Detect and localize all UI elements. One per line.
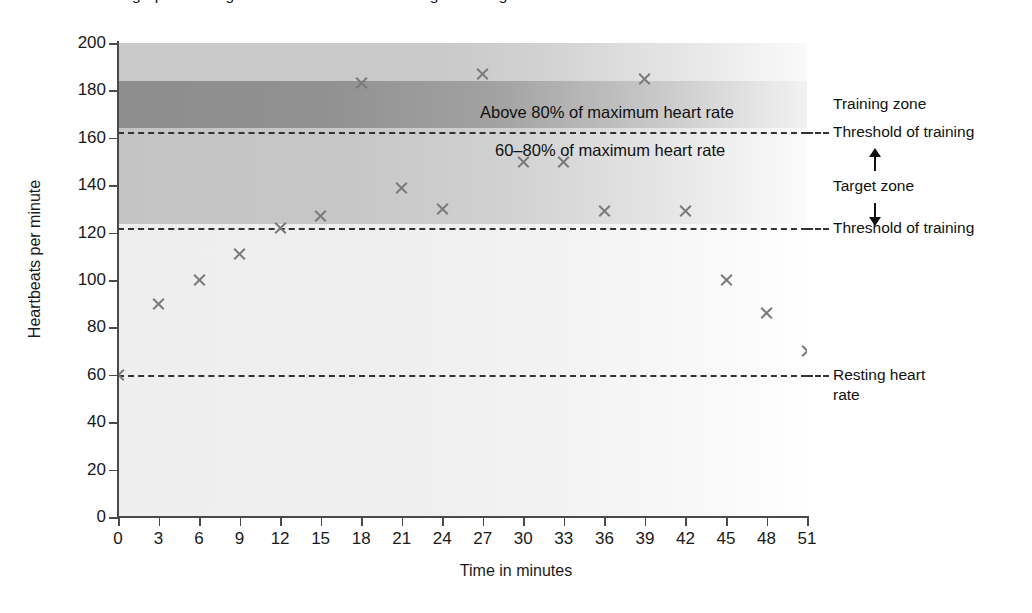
y-tick bbox=[109, 327, 118, 329]
x-tick bbox=[807, 517, 809, 526]
x-tick bbox=[604, 517, 606, 526]
reference-line-threshold-lower bbox=[118, 228, 807, 230]
x-tick bbox=[240, 517, 242, 526]
x-tick bbox=[199, 517, 201, 526]
band-training-zone-top bbox=[118, 43, 807, 81]
data-point bbox=[435, 202, 450, 217]
annotation-target-zone: Target zone bbox=[833, 177, 914, 195]
x-tick bbox=[685, 517, 687, 526]
y-tick bbox=[109, 422, 118, 424]
x-tick-label: 6 bbox=[194, 529, 203, 549]
arrow-up-icon bbox=[869, 148, 881, 171]
data-point bbox=[354, 76, 369, 91]
data-point bbox=[475, 66, 490, 81]
y-tick bbox=[109, 280, 118, 282]
x-axis-line bbox=[117, 516, 809, 518]
x-tick bbox=[321, 517, 323, 526]
y-tick bbox=[109, 90, 118, 92]
x-tick bbox=[361, 517, 363, 526]
y-axis-title: Heartbeats per minute bbox=[26, 164, 44, 354]
data-point bbox=[273, 221, 288, 236]
y-tick bbox=[109, 43, 118, 45]
x-tick bbox=[726, 517, 728, 526]
data-point bbox=[759, 306, 774, 321]
x-tick-label: 30 bbox=[514, 529, 533, 549]
y-tick-label: 100 bbox=[78, 270, 106, 290]
x-tick-label: 33 bbox=[554, 529, 573, 549]
x-tick bbox=[280, 517, 282, 526]
x-tick-label: 12 bbox=[271, 529, 290, 549]
x-tick-label: 42 bbox=[676, 529, 695, 549]
y-tick bbox=[109, 185, 118, 187]
x-tick-label: 36 bbox=[595, 529, 614, 549]
data-point bbox=[151, 297, 166, 312]
y-tick-label: 20 bbox=[87, 460, 106, 480]
chart-root: A graph showing an athlete's heart rate … bbox=[0, 0, 1032, 613]
plot-area: Above 80% of maximum heart rate 60–80% o… bbox=[118, 43, 807, 517]
x-tick-label: 45 bbox=[717, 529, 736, 549]
x-tick bbox=[767, 517, 769, 526]
annotation-training-zone: Training zone bbox=[833, 95, 926, 113]
x-tick-label: 24 bbox=[433, 529, 452, 549]
y-tick-label: 140 bbox=[78, 175, 106, 195]
y-tick bbox=[109, 517, 118, 519]
chart-title: A graph showing an athlete's heart rate … bbox=[118, 0, 818, 4]
data-point bbox=[719, 273, 734, 288]
x-tick bbox=[645, 517, 647, 526]
annotation-resting-line1: Resting heart bbox=[833, 366, 925, 384]
y-tick-label: 180 bbox=[78, 80, 106, 100]
x-tick bbox=[483, 517, 485, 526]
data-point bbox=[192, 273, 207, 288]
x-tick-label: 9 bbox=[235, 529, 244, 549]
data-point bbox=[118, 368, 126, 383]
x-tick-label: 27 bbox=[473, 529, 492, 549]
annotation-lead-resting bbox=[807, 375, 829, 377]
data-point bbox=[394, 180, 409, 195]
x-tick-label: 48 bbox=[757, 529, 776, 549]
band-below-target bbox=[118, 224, 807, 517]
x-tick bbox=[159, 517, 161, 526]
annotation-lead-threshold-upper bbox=[807, 132, 829, 134]
x-tick bbox=[118, 517, 120, 526]
data-point bbox=[556, 154, 571, 169]
annotation-lead-threshold-lower bbox=[807, 228, 829, 230]
x-axis-title: Time in minutes bbox=[0, 562, 1032, 580]
data-point bbox=[516, 154, 531, 169]
data-point bbox=[637, 71, 652, 86]
x-tick-label: 3 bbox=[154, 529, 163, 549]
reference-line-threshold-upper bbox=[118, 132, 807, 134]
annotation-resting-line2: rate bbox=[833, 386, 860, 404]
x-tick bbox=[402, 517, 404, 526]
x-tick-label: 51 bbox=[798, 529, 817, 549]
x-tick-label: 0 bbox=[113, 529, 122, 549]
y-tick-label: 120 bbox=[78, 223, 106, 243]
y-tick-label: 60 bbox=[87, 365, 106, 385]
annotation-threshold-upper: Threshold of training bbox=[833, 123, 974, 141]
y-tick bbox=[109, 233, 118, 235]
data-point bbox=[678, 204, 693, 219]
data-point bbox=[800, 344, 808, 359]
x-tick bbox=[442, 517, 444, 526]
x-tick-label: 39 bbox=[635, 529, 654, 549]
x-tick-label: 21 bbox=[392, 529, 411, 549]
data-point bbox=[232, 247, 247, 262]
y-tick bbox=[109, 138, 118, 140]
x-tick bbox=[564, 517, 566, 526]
zone-caption-above-80: Above 80% of maximum heart rate bbox=[480, 103, 734, 122]
y-tick bbox=[109, 470, 118, 472]
x-tick-label: 15 bbox=[311, 529, 330, 549]
annotation-threshold-lower: Threshold of training bbox=[833, 219, 974, 237]
y-tick-label: 0 bbox=[97, 507, 106, 527]
data-point bbox=[597, 204, 612, 219]
y-tick-label: 200 bbox=[78, 33, 106, 53]
x-tick-label: 18 bbox=[352, 529, 371, 549]
y-tick-label: 40 bbox=[87, 412, 106, 432]
data-point bbox=[313, 209, 328, 224]
reference-line-resting bbox=[118, 375, 807, 377]
y-tick-label: 160 bbox=[78, 128, 106, 148]
y-tick bbox=[109, 375, 118, 377]
x-tick bbox=[523, 517, 525, 526]
y-tick-label: 80 bbox=[87, 317, 106, 337]
